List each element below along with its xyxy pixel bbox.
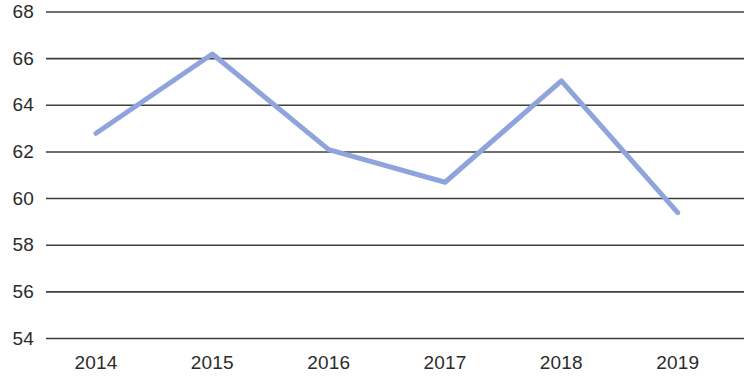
chart-plot-area bbox=[0, 0, 748, 380]
line-chart: 6866646260585654 20142015201620172018201… bbox=[0, 0, 748, 380]
gridline-group bbox=[46, 12, 744, 339]
series-line[interactable] bbox=[96, 54, 678, 213]
series-group bbox=[96, 54, 678, 213]
